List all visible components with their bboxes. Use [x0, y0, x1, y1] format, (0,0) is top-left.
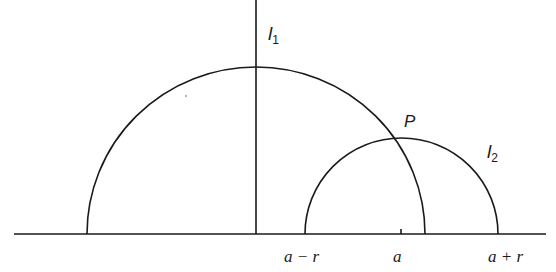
label-a-minus-r: a − r — [284, 247, 319, 266]
diagram-canvas: l1 P l2 a − r a a + r — [0, 0, 556, 272]
semicircle-l2 — [305, 138, 498, 234]
label-point-p: P — [404, 112, 416, 131]
label-l1: l1 — [268, 23, 279, 47]
label-a: a — [393, 247, 402, 266]
label-l2: l2 — [487, 141, 498, 165]
label-a-plus-r: a + r — [488, 247, 523, 266]
stray-dot — [185, 95, 187, 97]
